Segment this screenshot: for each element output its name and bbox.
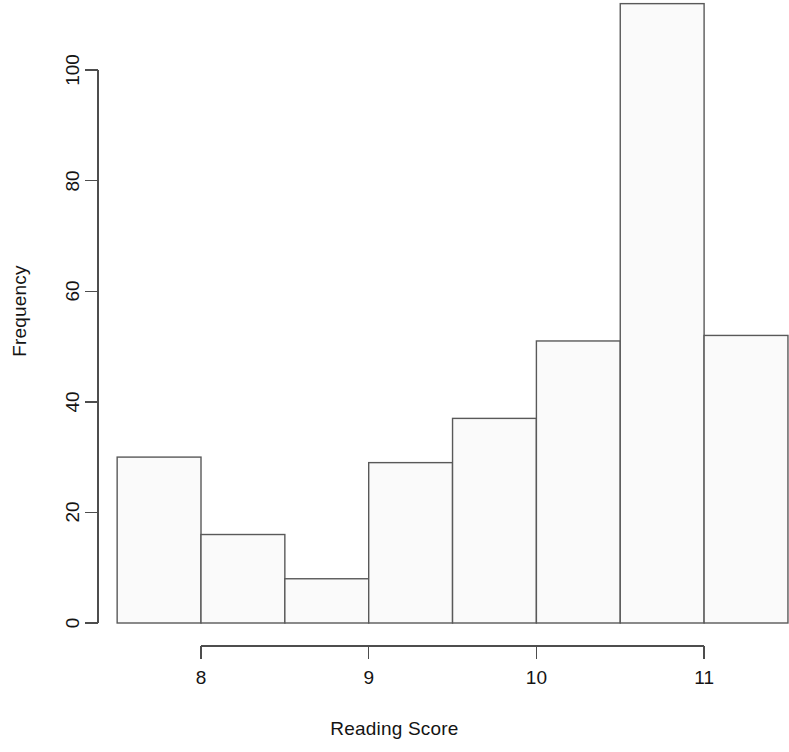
y-axis-tick-label: 40 [62,382,84,422]
y-axis-tick-label: 60 [62,271,84,311]
x-axis-tick-label: 8 [171,667,231,689]
histogram-bar [453,418,537,623]
histogram-bar [620,4,704,623]
y-axis-tick-label: 0 [62,603,84,643]
x-axis-tick-label: 9 [339,667,399,689]
y-axis-title: Frequency [9,251,31,371]
histogram-bar [117,457,201,623]
histogram-bar [369,463,453,623]
histogram-bar [285,579,369,623]
x-axis-tick-label: 10 [506,667,566,689]
y-axis-tick-label: 20 [62,492,84,532]
histogram-bar [536,341,620,623]
histogram-plot: Frequency Reading Score 0204060801008910… [0,0,789,752]
x-axis-tick-label: 11 [674,667,734,689]
histogram-bar [201,535,285,623]
plot-canvas [0,0,789,752]
x-axis-title: Reading Score [0,718,789,740]
y-axis-tick-label: 100 [62,50,84,90]
y-axis-tick-label: 80 [62,161,84,201]
bars-group [117,4,788,623]
histogram-bar [704,335,788,623]
